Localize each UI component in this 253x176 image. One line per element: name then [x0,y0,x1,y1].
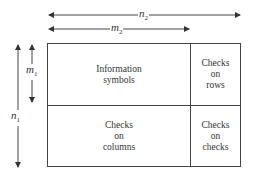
cell-checks-on-columns: Checks on columns [48,106,190,166]
m2-symbol: m [111,21,119,33]
m2-label: m2 [110,22,123,38]
code-matrix: Information symbols Checks on rows Check… [47,43,241,167]
n2-subscript: 2 [145,14,149,22]
m1-symbol: m [26,63,34,75]
cell-checks-on-checks: Checks on checks [191,106,240,166]
m2-subscript: 2 [119,28,123,36]
cell-checks-on-rows: Checks on rows [191,44,240,105]
cell-information-symbols: Information symbols [48,44,190,105]
n1-subscript: 1 [17,116,21,124]
checks-on-rows-text: Checks on rows [202,58,230,91]
information-symbols-text: Information symbols [96,64,141,86]
m1-subscript: 1 [34,70,38,78]
checks-on-checks-text: Checks on checks [202,120,230,153]
n2-label: n2 [138,8,149,24]
m1-label: m1 [25,64,38,80]
n1-label: n1 [10,110,21,126]
checks-on-columns-text: Checks on columns [103,120,135,153]
